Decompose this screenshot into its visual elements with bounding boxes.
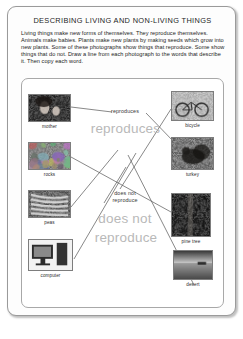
photo-rocks — [28, 142, 71, 170]
caption-peas: peas — [28, 220, 71, 225]
caption-rocks: rocks — [28, 172, 71, 177]
caption-desert: desert — [171, 282, 215, 287]
photo-turkey — [171, 137, 214, 170]
caption-turkey: turkey — [171, 172, 214, 177]
trace-word-does-not-small-line1: does not — [100, 190, 150, 196]
caption-pine-tree: pine tree — [168, 239, 214, 244]
trace-word-does-not-large-line1: does not — [88, 212, 162, 226]
trace-word-reproduces-large: reproduces — [83, 122, 168, 136]
page-title: DESCRIBING LIVING AND NON-LIVING THINGS — [8, 16, 237, 25]
caption-mother: mother — [28, 124, 71, 129]
trace-word-does-not-small-line2: reproduce — [98, 197, 152, 203]
instructions-paragraph: Living things make new forms of themselv… — [21, 30, 226, 65]
trace-word-reproduces-small: reproduces — [96, 108, 154, 114]
worksheet-page: DESCRIBING LIVING AND NON-LIVING THINGS … — [7, 6, 236, 316]
caption-computer: computer — [28, 273, 73, 278]
trace-word-does-not-large-line2: reproduce — [82, 231, 170, 245]
photo-mother — [28, 94, 71, 122]
photo-bicycle — [171, 91, 214, 121]
photo-computer — [28, 239, 73, 271]
photo-desert — [173, 250, 213, 280]
photo-pine-tree — [171, 193, 211, 237]
caption-bicycle: bicycle — [171, 123, 214, 128]
photo-peas — [28, 190, 71, 218]
